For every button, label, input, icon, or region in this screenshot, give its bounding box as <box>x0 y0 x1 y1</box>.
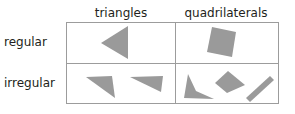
thin-rectangle-shape <box>246 76 274 102</box>
irregular-triangle-shape-2 <box>130 76 163 92</box>
grid-lines <box>67 23 279 104</box>
regular-triangle-shape <box>101 26 128 59</box>
shape-grid <box>0 0 295 114</box>
irregular-triangle-shape-1 <box>86 76 115 98</box>
square-shape <box>207 27 236 57</box>
kite-shape <box>215 71 245 93</box>
irregular-quadrilateral-shape <box>184 74 214 99</box>
